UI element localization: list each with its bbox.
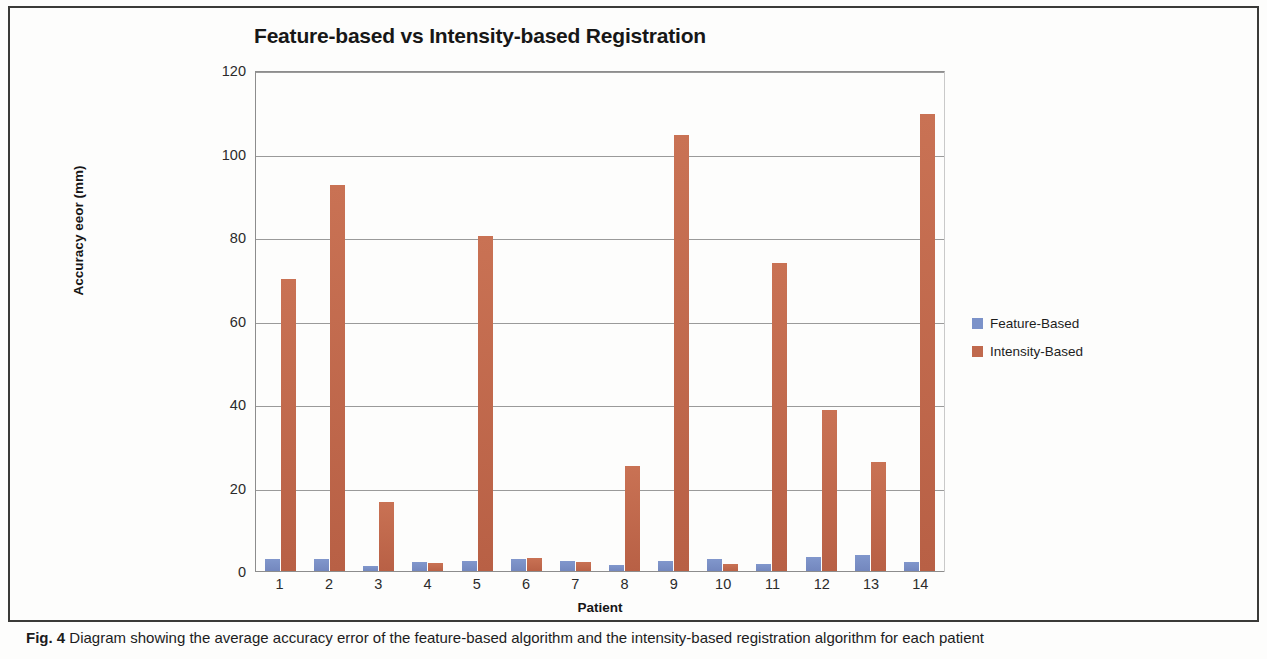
bar-group xyxy=(747,72,796,572)
bar-intensity-based-patient-9 xyxy=(674,135,689,572)
figure-container: Feature-based vs Intensity-based Registr… xyxy=(0,0,1267,659)
bar-intensity-based-patient-11 xyxy=(772,263,787,572)
bar-group xyxy=(453,72,502,572)
figure-border-right xyxy=(1257,6,1259,622)
bar-group xyxy=(797,72,846,572)
legend-item: Intensity-Based xyxy=(972,344,1172,359)
legend-swatch-icon xyxy=(972,346,983,357)
chart-legend: Feature-BasedIntensity-Based xyxy=(972,316,1172,372)
y-axis-tick-labels: 020406080100120 xyxy=(198,71,246,572)
figure-caption: Fig. 4 Diagram showing the average accur… xyxy=(26,629,1251,648)
x-axis-tick: 3 xyxy=(354,576,403,598)
bar-intensity-based-patient-2 xyxy=(330,185,345,572)
x-axis-label: Patient xyxy=(255,600,945,615)
x-axis-tick: 12 xyxy=(797,576,846,598)
x-axis-tick: 13 xyxy=(846,576,895,598)
y-axis-tick: 60 xyxy=(202,314,246,330)
y-axis-tick: 120 xyxy=(202,63,246,79)
bar-intensity-based-patient-13 xyxy=(871,462,886,572)
x-axis-tick: 14 xyxy=(896,576,945,598)
caption-label: Fig. 4 xyxy=(26,629,65,646)
y-axis-tick: 100 xyxy=(202,147,246,163)
plot-area xyxy=(255,71,945,572)
bar-intensity-based-patient-12 xyxy=(822,410,837,572)
x-axis-baseline xyxy=(256,571,944,572)
x-axis-tick: 5 xyxy=(452,576,501,598)
y-axis-label: Accuracy eeor (mm) xyxy=(71,111,86,351)
x-axis-tick: 11 xyxy=(748,576,797,598)
x-axis-tick: 8 xyxy=(600,576,649,598)
bar-intensity-based-patient-5 xyxy=(478,236,493,573)
x-axis-tick: 6 xyxy=(501,576,550,598)
bar-group xyxy=(551,72,600,572)
chart-title: Feature-based vs Intensity-based Registr… xyxy=(10,24,950,48)
bars-layer xyxy=(256,72,944,572)
x-axis-tick: 7 xyxy=(551,576,600,598)
bar-group xyxy=(846,72,895,572)
bar-group xyxy=(600,72,649,572)
y-axis-tick: 40 xyxy=(202,397,246,413)
x-axis-tick-labels: 1234567891011121314 xyxy=(255,576,945,598)
bar-intensity-based-patient-3 xyxy=(379,502,394,572)
y-axis-tick: 80 xyxy=(202,230,246,246)
bar-group xyxy=(895,72,944,572)
y-axis-tick: 20 xyxy=(202,481,246,497)
chart-panel: Feature-based vs Intensity-based Registr… xyxy=(10,8,1257,618)
bar-intensity-based-patient-14 xyxy=(920,114,935,572)
x-axis-tick: 10 xyxy=(699,576,748,598)
bar-group xyxy=(305,72,354,572)
caption-text: Diagram showing the average accuracy err… xyxy=(69,629,984,646)
legend-label: Intensity-Based xyxy=(990,344,1083,359)
x-axis-tick: 2 xyxy=(304,576,353,598)
y-axis-tick: 0 xyxy=(202,564,246,580)
x-axis-tick: 9 xyxy=(649,576,698,598)
bar-group xyxy=(256,72,305,572)
bar-group xyxy=(354,72,403,572)
legend-label: Feature-Based xyxy=(990,316,1079,331)
legend-swatch-icon xyxy=(972,318,983,329)
bar-group xyxy=(502,72,551,572)
bar-feature-based-patient-13 xyxy=(855,555,870,572)
bar-intensity-based-patient-1 xyxy=(281,279,296,573)
x-axis-tick: 1 xyxy=(255,576,304,598)
bar-group xyxy=(698,72,747,572)
bar-group xyxy=(403,72,452,572)
bar-group xyxy=(649,72,698,572)
x-axis-tick: 4 xyxy=(403,576,452,598)
legend-item: Feature-Based xyxy=(972,316,1172,331)
figure-border-bottom xyxy=(8,620,1259,622)
bar-intensity-based-patient-8 xyxy=(625,466,640,572)
